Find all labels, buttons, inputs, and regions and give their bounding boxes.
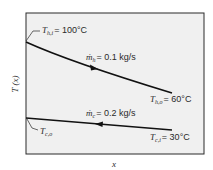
- heat-exchanger-diagram: Th,i= 100°C ṁh= 0.1 kg/s Th,o= 60°C ṁc= …: [0, 0, 213, 170]
- x-axis-label: x: [111, 159, 116, 169]
- y-axis-label: T (x): [10, 75, 20, 92]
